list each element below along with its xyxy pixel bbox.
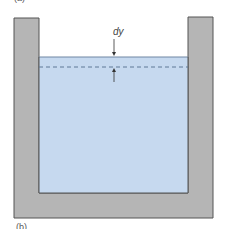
- bottom-panel-label: (b): [16, 222, 27, 229]
- down-arrow-head: [112, 52, 116, 56]
- dy-label: dy: [113, 26, 124, 37]
- water-body: [39, 57, 188, 193]
